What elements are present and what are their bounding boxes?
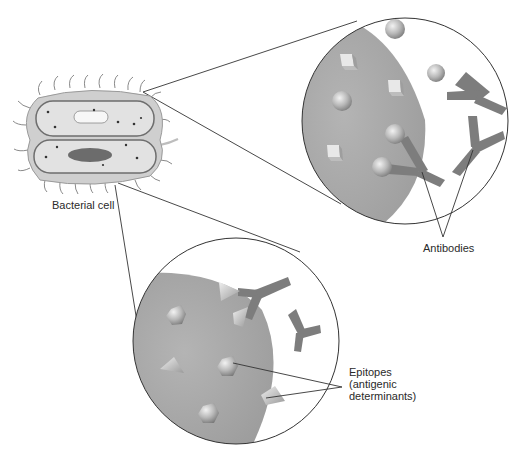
antibodies-label: Antibodies <box>423 242 474 254</box>
top-inset-magnified-view <box>290 10 508 240</box>
epitopes-label-line1: Epitopes <box>349 366 416 378</box>
bottom-inset-magnified-view <box>125 238 339 450</box>
epitopes-label-line3: determinants) <box>349 390 416 402</box>
bacterial-antigen-diagram <box>0 0 520 465</box>
epitopes-label: Epitopes (antigenic determinants) <box>349 366 416 402</box>
bacterial-cell-label: Bacterial cell <box>52 199 114 211</box>
epitopes-label-line2: (antigenic <box>349 378 416 390</box>
bacterial-cell-illustration <box>13 74 178 194</box>
